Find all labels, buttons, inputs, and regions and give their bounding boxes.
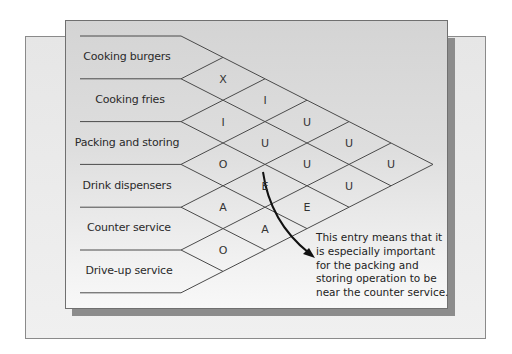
relationship-code: A (261, 222, 269, 235)
relationship-code: X (219, 72, 227, 85)
relationship-code: U (303, 115, 311, 128)
department-label: Cooking burgers (83, 50, 170, 63)
annotation-note: This entry means that it is especially i… (316, 231, 466, 300)
annotation-arrow (263, 172, 309, 253)
relationship-code: U (303, 158, 311, 171)
relationship-code: U (345, 137, 353, 150)
relationship-code: E (304, 201, 311, 214)
relationship-code: I (221, 115, 224, 128)
annotation-line: near the counter service. (316, 286, 466, 300)
relationship-code: O (219, 158, 228, 171)
annotation-line: This entry means that it (316, 231, 466, 245)
relationship-code: I (263, 94, 266, 107)
department-label: Packing and storing (75, 136, 180, 149)
annotation-line: for the packing and (316, 259, 466, 273)
relationship-code: U (261, 137, 269, 150)
department-label: Drink dispensers (83, 179, 172, 192)
relationship-code: A (219, 201, 227, 214)
annotation-line: is especially important (316, 245, 466, 259)
relationship-code: U (387, 158, 395, 171)
relationship-code: E (262, 179, 269, 192)
annotation-line: storing operation to be (316, 272, 466, 286)
relationship-code: O (219, 244, 228, 257)
relationship-chart-grid (0, 0, 512, 354)
department-label: Drive-up service (86, 264, 173, 277)
department-label: Cooking fries (95, 93, 164, 106)
relationship-code: U (345, 179, 353, 192)
department-label: Counter service (87, 221, 171, 234)
